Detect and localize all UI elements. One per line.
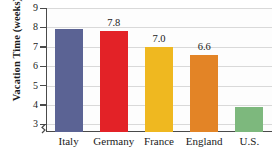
y-tick-label: 5 <box>18 81 38 91</box>
category-label-germany: Germany <box>91 135 136 147</box>
category-label-england: England <box>182 135 227 147</box>
bar-chart: Vacation Time (weeks) 9876543 7.87.06.6 … <box>0 0 272 159</box>
bar-germany <box>100 31 128 132</box>
x-axis-category-labels: ItalyGermanyFranceEnglandU.S. <box>46 135 272 155</box>
bars-layer <box>46 8 272 132</box>
y-tick-label: 3 <box>18 119 38 129</box>
bar-italy <box>55 29 83 132</box>
y-axis-title: Vacation Time (weeks) <box>11 0 22 110</box>
bar-value-label: 7.8 <box>94 17 134 28</box>
category-label-us: U.S. <box>227 135 272 147</box>
y-tick-label: 9 <box>18 3 38 13</box>
bar-england <box>190 55 218 133</box>
bar-value-label: 7.0 <box>139 33 179 44</box>
y-tick-label: 6 <box>18 61 38 71</box>
category-label-france: France <box>136 135 181 147</box>
bar-france <box>145 47 173 132</box>
bar-us <box>235 107 263 132</box>
category-label-italy: Italy <box>46 135 91 147</box>
y-tick-label: 8 <box>18 22 38 32</box>
y-tick-label: 4 <box>18 100 38 110</box>
bar-value-label: 6.6 <box>184 41 224 52</box>
y-tick-label: 7 <box>18 42 38 52</box>
